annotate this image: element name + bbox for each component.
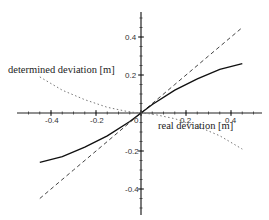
y-tick-label: 0.4 <box>125 33 137 42</box>
y-tick-label: -0.4 <box>125 185 139 194</box>
x-tick-label: -0.4 <box>45 116 59 125</box>
x-tick-label: -0.2 <box>90 116 104 125</box>
y-tick-label: 0.2 <box>125 71 137 80</box>
y-axis-label: determined deviation [m] <box>8 64 115 75</box>
x-axis-label: real deviation [m] <box>158 120 233 131</box>
chart-canvas: -0.4-0.200.20.4-0.4-0.20.20.4 determined… <box>0 0 269 220</box>
y-tick-label: -0.2 <box>125 147 139 156</box>
